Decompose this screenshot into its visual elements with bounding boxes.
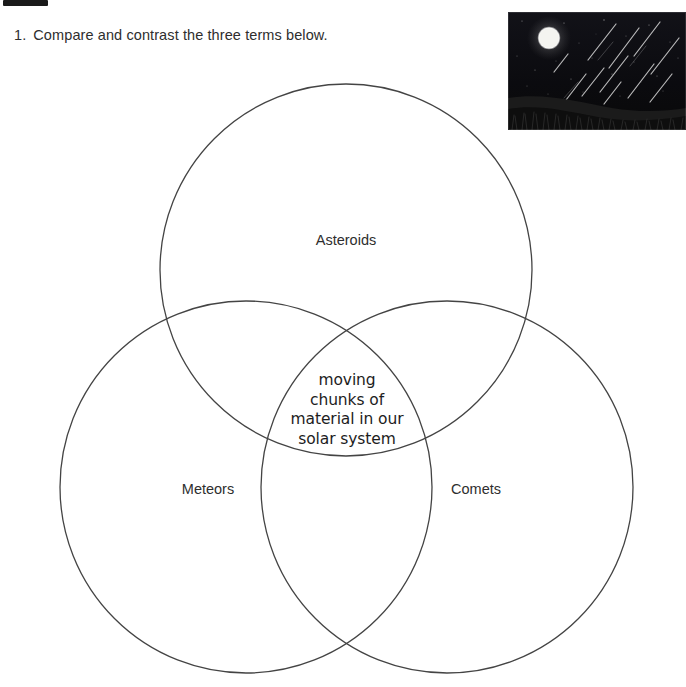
venn-label-comets: Comets	[451, 481, 501, 497]
venn-center-answer: moving chunks of material in our solar s…	[267, 371, 427, 449]
venn-label-meteors: Meteors	[182, 481, 234, 497]
venn-center-answer-line-3: material in our	[267, 410, 427, 430]
venn-circle-comets	[261, 301, 633, 673]
venn-circle-meteors	[60, 301, 432, 673]
venn-center-answer-line-4: solar system	[267, 430, 427, 450]
venn-center-answer-line-1: moving	[267, 371, 427, 391]
venn-label-asteroids: Asteroids	[316, 232, 376, 248]
venn-diagram	[0, 0, 686, 687]
venn-center-answer-line-2: chunks of	[267, 391, 427, 411]
